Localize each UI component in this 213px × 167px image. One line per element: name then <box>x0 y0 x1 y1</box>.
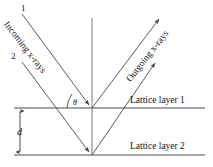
bragg-diffraction-diagram: 1 2 Incoming x-rays Outgoing x-rays Latt… <box>0 0 213 167</box>
d-spacing-label: d <box>17 127 22 137</box>
angle-arc <box>67 94 72 108</box>
lattice-layer-2-label: Lattice layer 2 <box>130 142 185 152</box>
lattice-layer-1-label: Lattice layer 1 <box>130 96 185 106</box>
beam-2-number-label: 2 <box>11 52 16 61</box>
theta-angle-label: θ <box>73 99 77 107</box>
incoming-beam-2 <box>22 62 89 152</box>
beam-1-number-label: 1 <box>21 4 26 13</box>
